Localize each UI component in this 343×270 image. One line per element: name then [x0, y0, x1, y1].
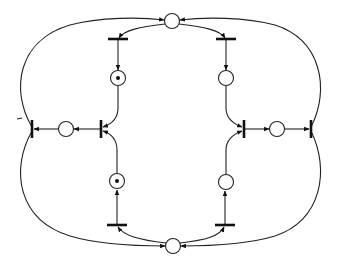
arc-bottom-to-t-bottom-left: [118, 227, 166, 243]
token-upper-left: [116, 76, 120, 80]
arc-outer-left-to-bottom: [21, 131, 165, 246]
arc-bottom-to-t-bottom-right: [180, 227, 224, 243]
place-upper-right: [219, 71, 234, 86]
arc-p-upper-left-to-t-inner-left: [103, 86, 118, 127]
token-lower-left: [115, 179, 119, 183]
arc-outer-right-to-top: [180, 18, 321, 127]
place-left: [59, 122, 74, 137]
arc-top-to-t-top-right: [179, 24, 225, 38]
arc-outer-left-to-top: [21, 18, 164, 127]
arc-outer-right-to-bottom: [181, 131, 321, 246]
arc-p-lower-right-to-t-inner-right: [226, 131, 242, 174]
petri-net-diagram: [0, 0, 343, 270]
place-bottom: [166, 239, 181, 254]
arc-top-to-t-top-left: [119, 24, 165, 38]
arc-stub-left: [17, 118, 22, 119]
arc-p-lower-left-to-t-inner-left: [103, 131, 117, 173]
place-lower-right: [219, 175, 234, 190]
place-top: [165, 14, 180, 29]
arc-p-upper-right-to-t-inner-right: [226, 86, 242, 127]
place-right: [270, 122, 285, 137]
